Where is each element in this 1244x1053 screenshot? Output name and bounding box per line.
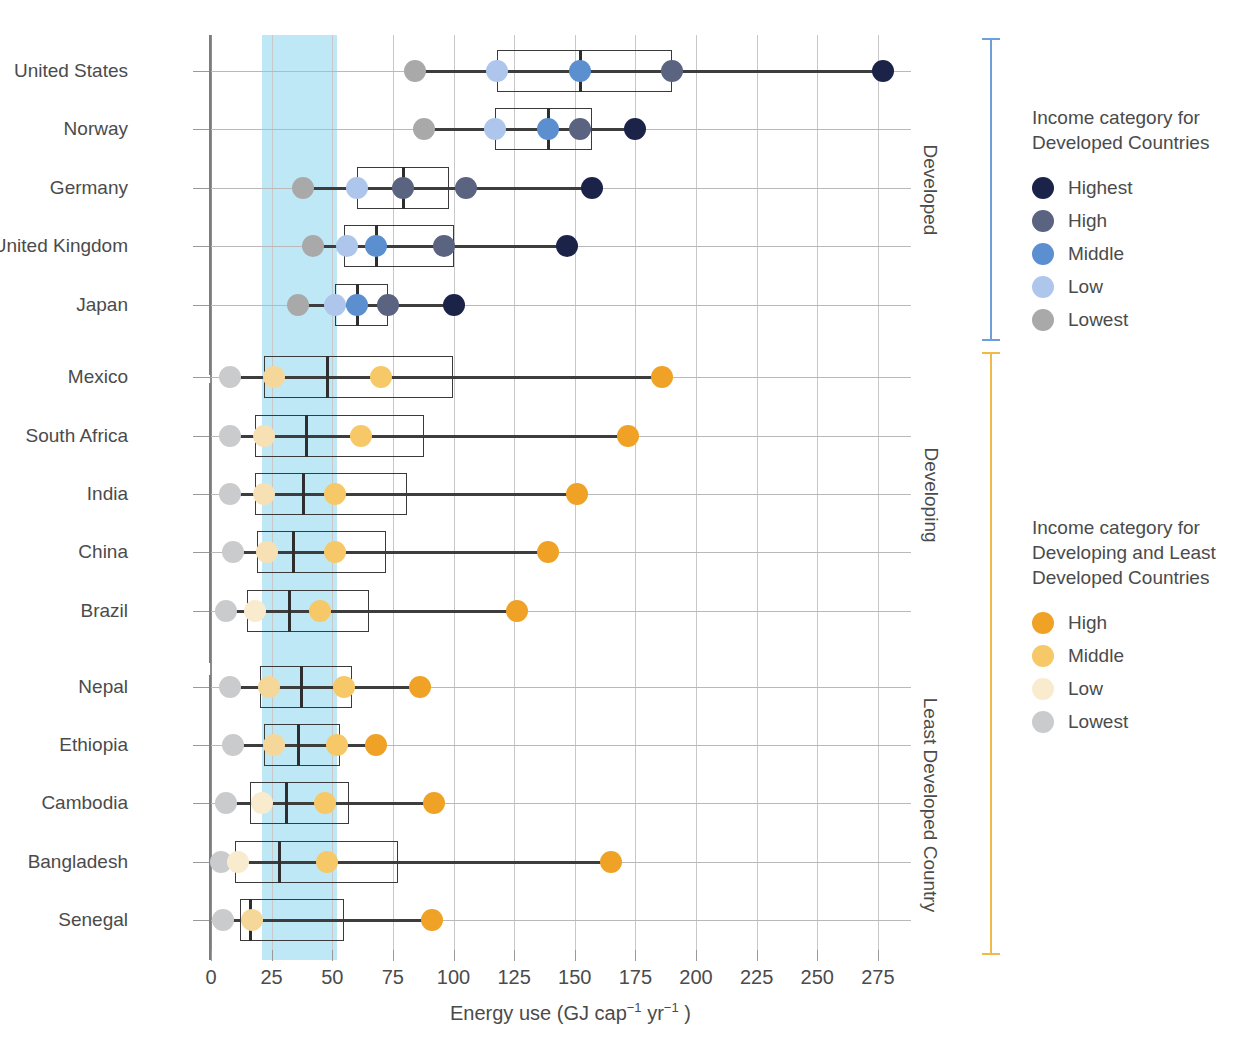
- data-point-high[interactable]: [651, 366, 673, 388]
- legend-developed: Income category forDeveloped CountriesHi…: [1032, 105, 1244, 336]
- data-point-middle[interactable]: [324, 541, 346, 563]
- data-point-lowest[interactable]: [212, 909, 234, 931]
- x-axis-tick: [817, 950, 818, 961]
- data-point-lowest[interactable]: [413, 118, 435, 140]
- data-point-lowest[interactable]: [215, 792, 237, 814]
- legend-swatch-icon: [1032, 177, 1054, 199]
- data-point-high[interactable]: [423, 792, 445, 814]
- x-axis-tick-label: 75: [382, 966, 404, 989]
- data-point-middle[interactable]: [392, 177, 414, 199]
- legend-title: Income category forDeveloped Countries: [1032, 105, 1244, 155]
- box: [255, 415, 425, 457]
- data-point-low[interactable]: [324, 294, 346, 316]
- x-axis-title: Energy use (GJ cap−1 yr−1 ): [450, 1000, 691, 1025]
- y-axis-label-brazil: Brazil: [80, 600, 128, 622]
- legend-item[interactable]: Lowest: [1032, 705, 1244, 738]
- legend-item[interactable]: Middle: [1032, 237, 1244, 270]
- legend-swatch-icon: [1032, 612, 1054, 634]
- median-line: [292, 531, 295, 573]
- bracket-cap: [982, 352, 1000, 354]
- data-point-high[interactable]: [566, 483, 588, 505]
- data-point-low[interactable]: [346, 177, 368, 199]
- data-point-low[interactable]: [244, 600, 266, 622]
- legend-item[interactable]: Low: [1032, 270, 1244, 303]
- box: [264, 356, 453, 398]
- legend-label: Middle: [1068, 645, 1124, 667]
- data-point-middle[interactable]: [370, 366, 392, 388]
- legend-label: Low: [1068, 678, 1103, 700]
- data-point-middle[interactable]: [569, 60, 591, 82]
- x-axis-tick-label: 50: [321, 966, 343, 989]
- legend-item[interactable]: Lowest: [1032, 303, 1244, 336]
- data-point-middle[interactable]: [537, 118, 559, 140]
- data-point-lowest[interactable]: [302, 235, 324, 257]
- legend-item[interactable]: Middle: [1032, 639, 1244, 672]
- data-point-high[interactable]: [455, 177, 477, 199]
- data-point-lowest[interactable]: [404, 60, 426, 82]
- gridline-vertical: [514, 35, 515, 960]
- y-axis-label-japan: Japan: [76, 294, 128, 316]
- data-point-middle[interactable]: [346, 294, 368, 316]
- y-axis-label-south-africa: South Africa: [26, 425, 128, 447]
- data-point-highest[interactable]: [443, 294, 465, 316]
- data-point-high[interactable]: [506, 600, 528, 622]
- x-axis-tick-label: 275: [861, 966, 894, 989]
- data-point-high[interactable]: [421, 909, 443, 931]
- data-point-lowest[interactable]: [222, 734, 244, 756]
- data-point-low[interactable]: [251, 792, 273, 814]
- data-point-highest[interactable]: [581, 177, 603, 199]
- data-point-high[interactable]: [377, 294, 399, 316]
- data-point-high[interactable]: [661, 60, 683, 82]
- legend-item[interactable]: High: [1032, 204, 1244, 237]
- x-axis-tick-label: 25: [261, 966, 283, 989]
- data-point-middle[interactable]: [365, 235, 387, 257]
- data-point-lowest[interactable]: [292, 177, 314, 199]
- legend-item[interactable]: Highest: [1032, 171, 1244, 204]
- data-point-middle[interactable]: [326, 734, 348, 756]
- legend-item[interactable]: High: [1032, 606, 1244, 639]
- data-point-lowest[interactable]: [219, 425, 241, 447]
- data-point-low[interactable]: [263, 366, 285, 388]
- y-axis-label-ethiopia: Ethiopia: [59, 734, 128, 756]
- data-point-high[interactable]: [537, 541, 559, 563]
- data-point-lowest[interactable]: [219, 366, 241, 388]
- data-point-high[interactable]: [365, 734, 387, 756]
- data-point-low[interactable]: [263, 734, 285, 756]
- median-line: [326, 356, 329, 398]
- data-point-high[interactable]: [569, 118, 591, 140]
- data-point-low[interactable]: [227, 851, 249, 873]
- data-point-high[interactable]: [600, 851, 622, 873]
- x-axis-tick-label: 225: [740, 966, 773, 989]
- data-point-middle[interactable]: [314, 792, 336, 814]
- data-point-low[interactable]: [486, 60, 508, 82]
- data-point-high[interactable]: [409, 676, 431, 698]
- legend-swatch-icon: [1032, 276, 1054, 298]
- data-point-high[interactable]: [617, 425, 639, 447]
- legend-swatch-icon: [1032, 309, 1054, 331]
- legend-label: Lowest: [1068, 711, 1128, 733]
- data-point-low[interactable]: [336, 235, 358, 257]
- data-point-lowest[interactable]: [215, 600, 237, 622]
- data-point-middle[interactable]: [333, 676, 355, 698]
- x-axis-tick: [211, 950, 212, 961]
- group-axis-segment: [209, 383, 211, 663]
- bracket-cap: [982, 953, 1000, 955]
- y-axis-label-china: China: [78, 541, 128, 563]
- data-point-low[interactable]: [484, 118, 506, 140]
- data-point-lowest[interactable]: [222, 541, 244, 563]
- data-point-middle[interactable]: [324, 483, 346, 505]
- data-point-high[interactable]: [433, 235, 455, 257]
- legend-label: High: [1068, 612, 1107, 634]
- data-point-lowest[interactable]: [219, 483, 241, 505]
- data-point-middle[interactable]: [309, 600, 331, 622]
- x-axis-tick: [696, 950, 697, 961]
- group-label-developed: Developed: [919, 145, 941, 236]
- data-point-lowest[interactable]: [219, 676, 241, 698]
- legend-label: Lowest: [1068, 309, 1128, 331]
- data-point-highest[interactable]: [872, 60, 894, 82]
- y-axis-label-germany: Germany: [50, 177, 128, 199]
- group-label-developing: Developing: [919, 447, 941, 542]
- data-point-low[interactable]: [256, 541, 278, 563]
- legend-item[interactable]: Low: [1032, 672, 1244, 705]
- data-point-highest[interactable]: [624, 118, 646, 140]
